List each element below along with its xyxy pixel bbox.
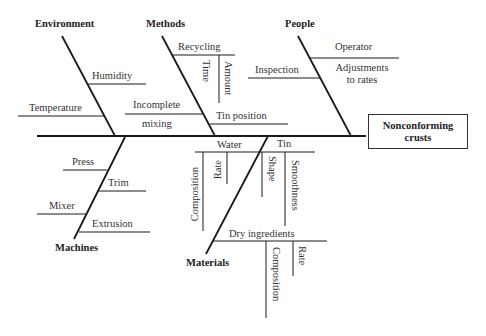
cause-recycling-time: Time [200, 60, 211, 82]
fishbone-lines [0, 0, 486, 336]
cause-water-composition: Composition [190, 167, 201, 221]
cause-incomplete: Incomplete [133, 100, 180, 111]
cause-extrusion: Extrusion [92, 219, 133, 230]
cause-to-rates: to rates [327, 75, 397, 86]
cause-temperature: Temperature [29, 103, 82, 114]
cause-tin-smoothness: Smoothness [289, 160, 300, 211]
category-environment: Environment [35, 19, 94, 30]
cause-dry-composition: Composition [270, 247, 281, 301]
category-machines: Machines [55, 243, 98, 254]
cause-operator: Operator [335, 42, 372, 53]
cause-recycling: Recycling [178, 42, 221, 53]
cause-inspection: Inspection [255, 65, 299, 76]
cause-recycling-amount: Amount [222, 61, 233, 95]
cause-mixer: Mixer [49, 201, 75, 212]
category-people: People [285, 19, 315, 30]
cause-tin-position: Tin position [216, 111, 267, 122]
bone-environment [62, 36, 115, 136]
cause-tin-shape: Shape [266, 156, 277, 182]
effect-label-line1: Nonconforming [369, 120, 467, 132]
effect-label-line2: crusts [369, 132, 467, 144]
cause-tin: Tin [277, 139, 291, 150]
cause-mixing: mixing [142, 119, 172, 130]
cause-trim: Trim [108, 178, 129, 189]
category-methods: Methods [146, 19, 185, 30]
cause-dry-ingredients: Dry ingredients [229, 229, 295, 240]
cause-adjustments: Adjustments [327, 63, 397, 74]
cause-water: Water [217, 140, 242, 151]
cause-humidity: Humidity [92, 71, 132, 82]
cause-press: Press [72, 157, 94, 168]
effect-box: Nonconforming crusts [368, 114, 468, 149]
cause-water-rate: Rate [213, 160, 224, 179]
category-materials: Materials [186, 258, 229, 269]
cause-dry-rate: Rate [296, 246, 307, 265]
